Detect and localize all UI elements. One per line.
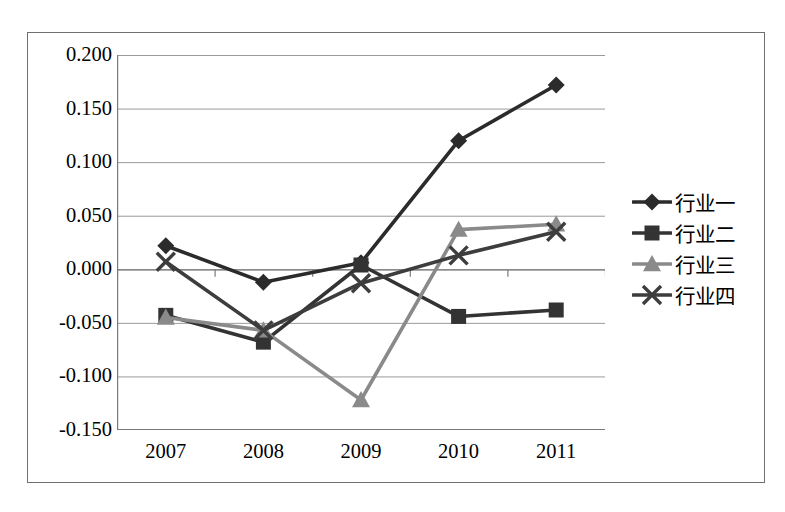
- plot-area: [117, 55, 605, 430]
- x-tick-label: 2008: [243, 441, 284, 462]
- plot-svg: [117, 55, 605, 430]
- data-point-diamond: [548, 77, 565, 94]
- data-point-diamond: [644, 193, 661, 210]
- legend-item-1[interactable]: 行业一: [632, 186, 752, 217]
- x-axis-tick-labels: 20072008200920102011: [117, 441, 605, 473]
- legend-marker-square-icon: [632, 221, 672, 245]
- y-tick-label: -0.050: [59, 312, 112, 333]
- line-chart: 0.2000.1500.1000.0500.000-0.050-0.100-0.…: [0, 0, 785, 512]
- x-tick-label: 2009: [341, 441, 382, 462]
- legend-marker-triangle-icon: [632, 252, 672, 276]
- y-axis-tick-labels: 0.2000.1500.1000.0500.000-0.050-0.100-0.…: [24, 0, 112, 512]
- x-tick-label: 2011: [536, 441, 576, 462]
- y-tick-label: -0.150: [59, 419, 112, 440]
- legend-label: 行业三: [675, 249, 735, 279]
- legend-item-2[interactable]: 行业二: [632, 217, 752, 248]
- data-point-square: [549, 303, 564, 318]
- y-tick-label: 0.150: [66, 98, 112, 119]
- series-square: [158, 258, 563, 350]
- data-point-square: [645, 225, 660, 240]
- x-tick-label: 2010: [438, 441, 479, 462]
- y-tick-label: 0.200: [66, 44, 112, 65]
- legend-item-3[interactable]: 行业三: [632, 248, 752, 279]
- y-tick-label: -0.100: [59, 365, 112, 386]
- y-tick-label: 0.000: [66, 258, 112, 279]
- data-point-square: [451, 309, 466, 324]
- series-cross: [157, 223, 565, 340]
- legend-label: 行业二: [675, 218, 735, 248]
- data-point-diamond: [157, 237, 174, 254]
- data-point-cross: [157, 253, 175, 271]
- legend-item-4[interactable]: 行业四: [632, 279, 752, 310]
- y-tick-label: 0.050: [66, 205, 112, 226]
- legend-label: 行业四: [675, 280, 735, 310]
- data-point-diamond: [255, 274, 272, 291]
- y-tick-label: 0.100: [66, 151, 112, 172]
- data-point-square: [354, 258, 369, 273]
- x-tick-label: 2007: [145, 441, 186, 462]
- legend-marker-diamond-icon: [632, 190, 672, 214]
- legend-label: 行业一: [675, 187, 735, 217]
- chart-legend: 行业一行业二行业三行业四: [632, 186, 752, 310]
- legend-marker-cross-icon: [632, 283, 672, 307]
